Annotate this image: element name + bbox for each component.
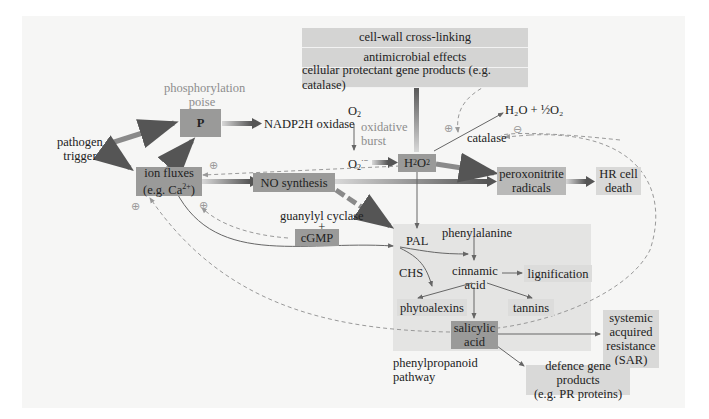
phosphorylation-poise-label: phosphorylation poise: [164, 81, 240, 109]
ion-sup: 2+: [182, 182, 191, 191]
sar-line1: systemic: [609, 311, 653, 325]
positive-sign-icon: ⊕: [131, 200, 140, 213]
tannins-box: tannins: [508, 299, 554, 316]
h2o2-box: H2O2: [398, 154, 436, 172]
dashed-regulation-arrows: [150, 79, 656, 332]
sar-line2: acquired: [609, 325, 652, 339]
phenylpropanoid-pathway-label: phenylpropanoid pathway: [393, 356, 478, 384]
positive-sign-icon: ⊕: [444, 122, 453, 135]
pathogen-line1: pathogen: [57, 135, 103, 149]
superoxide-sup: ·−: [361, 156, 368, 165]
cgmp-box: cGMP: [295, 229, 339, 246]
guanylyl-cyclase: guanylyl cyclase +: [280, 209, 364, 231]
ion-fluxes-line1: ion fluxes: [144, 166, 194, 180]
catalase: catalase: [467, 131, 507, 145]
pathogen-line2: trigger: [57, 149, 103, 163]
oxidative-line1: oxidative: [361, 120, 408, 134]
effect-protectant: cellular protectant gene products (e.g. …: [302, 68, 528, 88]
cinnamic-line1: cinnamic: [452, 264, 498, 278]
lignification-label: lignification: [527, 267, 588, 281]
hr-line1: HR cell: [599, 167, 638, 181]
phytoalexins-box: phytoalexins: [397, 299, 467, 316]
hr-line2: death: [605, 181, 632, 195]
cinnamic-acid: cinnamic acid: [452, 264, 498, 292]
positive-sign-icon: ⊕: [199, 199, 208, 212]
ion-fluxes-box: ion fluxes (e.g. Ca2+): [136, 167, 202, 196]
ion-suffix: ): [191, 183, 195, 197]
cgmp-label: cGMP: [301, 231, 334, 245]
salicylic-line2: acid: [464, 335, 485, 349]
peroxonitrite-line1: peroxonitrite: [499, 167, 564, 181]
ion-fluxes-line2: (e.g. Ca2+): [143, 180, 195, 197]
negative-sign-icon: ⊖: [513, 123, 522, 136]
phosphorylation-box: P: [180, 109, 221, 137]
tannins-label: tannins: [513, 301, 549, 315]
h2o2-h: H: [404, 156, 413, 170]
chs: CHS: [399, 266, 423, 280]
phosphorylation-line1: phosphorylation: [164, 81, 240, 95]
defence-line1: defence gene products: [526, 359, 630, 387]
phenylpropanoid-line2: pathway: [393, 370, 478, 384]
oxidative-line2: burst: [361, 134, 408, 148]
defence-gene-products-box: defence gene products (e.g. PR proteins): [526, 365, 630, 395]
phosphorylation-line2: poise: [164, 95, 240, 109]
no-synthesis-box: NO synthesis: [253, 173, 335, 192]
superoxide: O2·−: [348, 154, 368, 175]
sar-line3: resistance: [606, 339, 655, 353]
salicylic-acid-box: salicylic acid: [451, 321, 498, 349]
oxygen: O2: [348, 104, 361, 122]
phenylpropanoid-line1: phenylpropanoid: [393, 356, 478, 370]
pal: PAL: [406, 234, 428, 248]
oxidative-burst-label: oxidative burst: [361, 120, 408, 148]
ion-prefix: (e.g. Ca: [143, 183, 182, 197]
peroxonitrite-line2: radicals: [512, 181, 551, 195]
effects-stack: cell-wall cross-linking antimicrobial ef…: [302, 28, 528, 88]
hr-cell-death-box: HR cell death: [596, 167, 641, 195]
salicylic-line1: salicylic: [454, 321, 496, 335]
p-label: P: [197, 116, 205, 130]
cinnamic-line2: acid: [452, 278, 498, 292]
phenylalanine: phenylalanine: [442, 226, 512, 240]
no-synthesis-label: NO synthesis: [260, 176, 327, 190]
lignification-box: lignification: [524, 265, 592, 282]
nadph-oxidase: NADP2H oxidase: [264, 117, 355, 131]
o2-sub: 2: [357, 110, 361, 119]
water-product: H₂O + ½O₂: [505, 103, 563, 117]
peroxonitrite-box: peroxonitrite radicals: [497, 167, 566, 195]
h2o2-o: O: [417, 156, 426, 170]
phytoalexins-label: phytoalexins: [400, 301, 464, 315]
o2-o: O: [348, 104, 357, 118]
effect-cell-wall: cell-wall cross-linking: [302, 28, 528, 48]
superoxide-o: O: [348, 157, 357, 171]
positive-sign-icon: ⊕: [209, 159, 218, 172]
pathogen-trigger: pathogen trigger: [57, 135, 103, 163]
h2o2-sub2: 2: [426, 156, 430, 170]
defence-line2: (e.g. PR proteins): [534, 387, 622, 401]
